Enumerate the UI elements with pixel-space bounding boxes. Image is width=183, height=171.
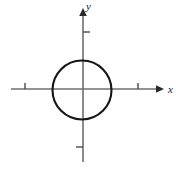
x-axis-label: x: [167, 83, 173, 95]
y-axis-label: y: [85, 0, 91, 12]
x-axis-arrowhead: [156, 85, 164, 93]
math-figure-unit-circle: y x: [0, 0, 183, 171]
coordinate-plane-canvas: y x: [0, 0, 183, 171]
unit-circle-shape: [53, 61, 112, 120]
